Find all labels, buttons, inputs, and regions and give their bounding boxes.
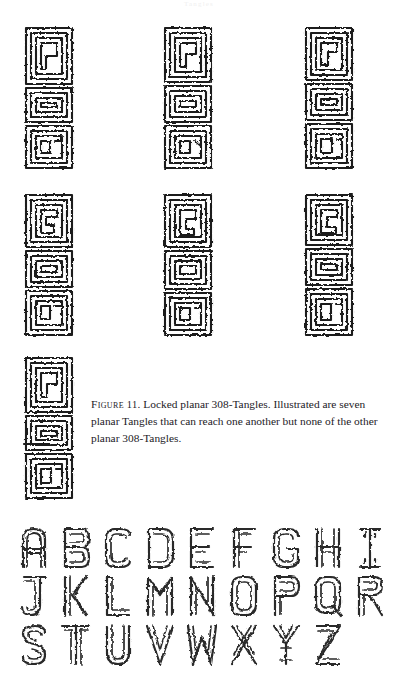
knot-letter-R [350, 569, 390, 619]
tangle-figure-6 [300, 189, 358, 341]
knot-letter-U [98, 618, 138, 668]
knot-letter-O [224, 569, 264, 619]
alphabet-row-2 [0, 567, 398, 619]
knot-letter-P [266, 569, 306, 619]
figure-caption-number: 11 [127, 399, 138, 410]
knot-letter-T [56, 618, 96, 668]
knot-letter-M [140, 569, 180, 619]
tangle-figure-2 [159, 22, 217, 174]
knot-letter-Q [308, 569, 348, 619]
knot-letter-D [140, 521, 180, 571]
knot-letter-B [56, 521, 96, 571]
figure-caption: Figure 11. Locked planar 308-Tangles. Il… [91, 396, 391, 448]
knot-letter-L [98, 569, 138, 619]
knot-letter-F [224, 521, 264, 571]
knot-letter-Z [308, 618, 348, 668]
document-page: Tangles [0, 0, 398, 680]
tangle-figure-5 [159, 189, 217, 341]
knot-letter-S [14, 618, 54, 668]
knot-letter-W [182, 618, 222, 668]
tangle-figure-1 [20, 22, 78, 174]
knot-letter-K [56, 569, 96, 619]
tangle-figure-4 [20, 189, 78, 341]
knot-letter-J [14, 569, 54, 619]
knot-letter-C [98, 521, 138, 571]
knot-letter-A [14, 521, 54, 571]
knot-letter-I [350, 521, 390, 571]
tangle-figure-7 [20, 352, 78, 504]
knot-letter-G [266, 521, 306, 571]
knot-letter-V [140, 618, 180, 668]
figure-caption-label: Figure [91, 398, 124, 410]
knot-letter-X [224, 618, 264, 668]
knot-letter-N [182, 569, 222, 619]
alphabet-row-3 [0, 616, 398, 668]
knot-alphabet-specimen [0, 512, 398, 680]
alphabet-row-1 [0, 519, 398, 571]
knot-letter-E [182, 521, 222, 571]
knot-letter-H [308, 521, 348, 571]
knot-letter-Y [266, 618, 306, 668]
tangle-figure-3 [300, 22, 358, 174]
